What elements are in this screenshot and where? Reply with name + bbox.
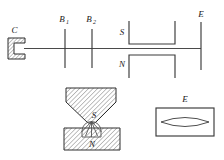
label-e-detail: E: [181, 94, 188, 104]
n-pole-bracket: [129, 55, 175, 78]
label-n-top: N: [118, 59, 126, 69]
label-n-detail: N: [88, 139, 96, 149]
detail-right: E: [156, 94, 214, 136]
figure-canvas: C B 1 B 2 S N: [0, 0, 224, 160]
detail-aperture-frame: [156, 108, 214, 136]
component-c-clamp: C: [8, 25, 25, 59]
label-s-top: S: [120, 27, 125, 37]
component-n-pole: N: [118, 55, 175, 78]
component-s-pole: S: [120, 21, 175, 44]
label-c: C: [11, 25, 18, 35]
label-b1: B: [59, 14, 65, 24]
label-b2: B: [86, 14, 92, 24]
detail-left: S N: [64, 88, 120, 150]
figure-root: C B 1 B 2 S N: [0, 0, 224, 160]
component-b1: B 1: [59, 14, 69, 68]
component-b2: B 2: [86, 14, 96, 68]
detail-lens-shape: [161, 118, 209, 127]
label-s-detail: S: [92, 110, 97, 120]
label-b2-subscript: 2: [93, 19, 96, 25]
component-e-line: E: [197, 9, 204, 70]
top-diagram: C B 1 B 2 S N: [8, 9, 204, 78]
c-clamp-body: [8, 38, 25, 59]
s-pole-bracket: [129, 21, 175, 44]
label-e-top: E: [197, 9, 204, 19]
label-b1-subscript: 1: [66, 19, 69, 25]
